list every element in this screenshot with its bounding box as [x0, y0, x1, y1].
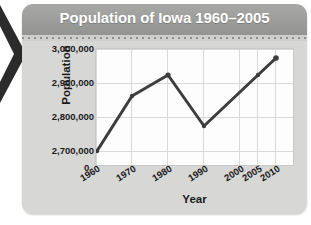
chevron-right-icon: [0, 0, 24, 125]
y-tick-label: 2,900,000: [38, 77, 94, 88]
y-tick-label: 2,700,000: [38, 145, 94, 156]
x-tick-label: 1980: [150, 163, 174, 184]
y-tick-label: 3,000,000: [38, 43, 94, 54]
data-point: [273, 55, 279, 61]
data-point: [165, 72, 170, 77]
x-tick-label: 1970: [114, 163, 138, 184]
chart-area: Population 3,000,000 2,900,000 2,800,000…: [22, 41, 307, 214]
x-tick-label: 2010: [258, 163, 282, 184]
x-axis-title: Year: [95, 193, 294, 205]
line-chart-svg: [96, 49, 293, 165]
y-tick-label: 2,800,000: [38, 111, 94, 122]
horizontal-gridlines: [96, 50, 293, 152]
data-line: [97, 58, 276, 151]
data-point: [130, 94, 134, 98]
x-tick-label: 1990: [186, 163, 210, 184]
chart-title: Population of Iowa 1960–2005: [22, 9, 307, 26]
screenshot-root: Population of Iowa 1960–2005 Population …: [0, 0, 311, 225]
plot-area: [95, 48, 294, 166]
data-point: [256, 73, 260, 77]
data-point: [202, 124, 206, 128]
chart-card: Population of Iowa 1960–2005 Population …: [22, 4, 307, 214]
x-tick-label: 1960: [78, 163, 102, 184]
y-axis-tick-labels: 3,000,000 2,900,000 2,800,000 2,700,000: [38, 41, 94, 141]
